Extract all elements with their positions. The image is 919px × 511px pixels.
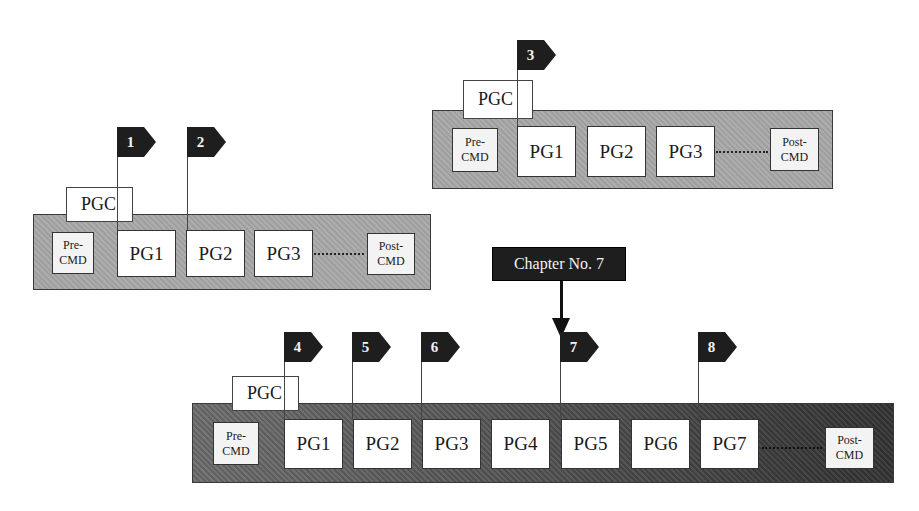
continuation-dots-3 (762, 447, 822, 449)
flag-icon: 6 (421, 332, 448, 362)
chapter-callout: Chapter No. 7 (492, 247, 626, 281)
flag-icon: 7 (560, 332, 587, 362)
program-2-3: PG3 (656, 126, 715, 177)
pre-cmd-1: Pre-CMD (52, 232, 94, 274)
flag-icon: 8 (698, 332, 725, 362)
post-cmd-3: Post-CMD (825, 427, 874, 469)
post-cmd-2: Post-CMD (770, 128, 819, 171)
pre-cmd-3: Pre-CMD (213, 422, 259, 465)
continuation-dots-1 (314, 253, 364, 255)
flag-icon: 1 (117, 127, 144, 157)
flag-icon: 4 (284, 332, 311, 362)
chapter-flag-5: 5 (352, 332, 391, 362)
program-3-4: PG4 (491, 419, 550, 469)
chapter-flag-1: 1 (117, 127, 156, 157)
callout-arrow-shaft (560, 281, 563, 321)
program-3-5: PG5 (561, 419, 620, 469)
program-1-3: PG3 (254, 230, 313, 277)
program-3-6: PG6 (631, 419, 690, 469)
program-1-1: PG1 (117, 230, 176, 277)
chapter-flag-2: 2 (187, 127, 226, 157)
program-3-7: PG7 (700, 419, 759, 469)
program-3-1: PG1 (284, 419, 343, 469)
chapter-flag-3: 3 (517, 40, 556, 70)
program-2-2: PG2 (587, 126, 646, 177)
chapter-flag-8: 8 (698, 332, 737, 362)
chapter-flag-4: 4 (284, 332, 323, 362)
program-3-2: PG2 (353, 419, 412, 469)
chapter-flag-7: 7 (560, 332, 599, 362)
pgc-label-1: PGC (66, 187, 133, 222)
chapter-flag-6: 6 (421, 332, 460, 362)
flag-icon: 5 (352, 332, 379, 362)
program-3-3: PG3 (422, 419, 481, 469)
flag-icon: 2 (187, 127, 214, 157)
pgc-label-3: PGC (232, 376, 299, 411)
pgc-label-2: PGC (463, 80, 533, 119)
post-cmd-1: Post-CMD (367, 233, 415, 275)
continuation-dots-2 (716, 151, 768, 153)
program-2-1: PG1 (517, 126, 576, 177)
program-1-2: PG2 (186, 230, 245, 277)
pre-cmd-2: Pre-CMD (452, 128, 498, 172)
flag-icon: 3 (517, 40, 544, 70)
